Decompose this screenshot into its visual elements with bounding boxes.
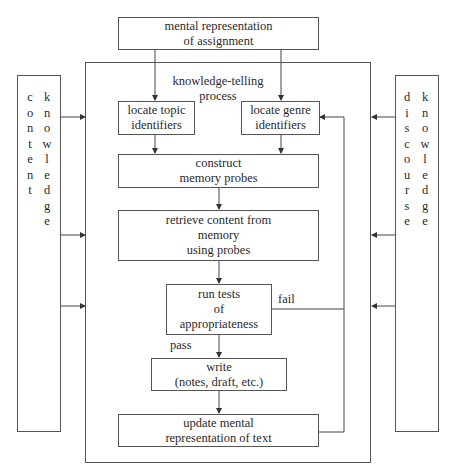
pass-label: pass [170, 338, 192, 353]
locate-genre-identifiers-box: locate genre identifiers [241, 101, 320, 135]
knowledge-column-left: k n o w l e d g e [42, 90, 52, 230]
update-mental-representation-box: update mental representation of text [118, 414, 319, 447]
content-knowledge-box [17, 75, 61, 432]
fail-label: fail [278, 292, 295, 307]
content-column: c o n t e n t [25, 90, 35, 199]
retrieve-content-box: retrieve content from memory using probe… [118, 210, 319, 261]
construct-memory-probes-box: construct memory probes [118, 154, 319, 188]
process-label: knowledge-telling process [150, 74, 286, 104]
discourse-column: d i s c o u r s e [402, 90, 412, 230]
mental-representation-assignment-box: mental representation of assignment [118, 17, 319, 50]
knowledge-column-right: k n o w l e d g e [420, 90, 430, 230]
locate-topic-identifiers-box: locate topic identifiers [118, 101, 195, 135]
write-box: write (notes, draft, etc.) [151, 358, 287, 391]
run-tests-box: run tests of appropriateness [166, 284, 272, 335]
